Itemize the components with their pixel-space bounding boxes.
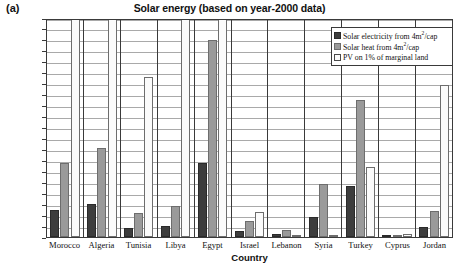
x-tick-label: Jordan [416,240,453,250]
y-tick-mark [42,29,46,30]
y-tick-mark [42,84,46,85]
x-tick-label: Israel [231,240,268,250]
bar[interactable] [245,221,254,237]
bar[interactable] [134,213,143,237]
x-tick-label: Libya [157,240,194,250]
y-tick-mark [42,227,46,228]
bar[interactable] [87,204,96,237]
legend-swatch-solar-electricity [334,32,341,39]
y-tick-mark [42,106,46,107]
bar[interactable] [403,234,412,237]
bar[interactable] [309,217,318,237]
bar[interactable] [181,19,190,237]
bar[interactable] [218,19,227,237]
bar-group [47,20,84,237]
bar-group [232,20,269,237]
y-tick-mark [42,19,46,20]
bar[interactable] [382,235,391,237]
bar[interactable] [272,234,281,237]
x-tick-label: Syria [305,240,342,250]
bar[interactable] [235,231,244,237]
y-tick-mark [42,40,46,41]
legend-swatch-solar-heat [334,43,341,50]
bar[interactable] [97,148,106,237]
legend-item[interactable]: Solar heat from 4m2/cap [334,41,450,52]
x-axis-labels: MoroccoAlgeriaTunisiaLibyaEgyptIsraelLeb… [46,240,453,250]
bar[interactable] [108,19,117,237]
bar[interactable] [255,212,264,237]
y-tick-mark [42,216,46,217]
bar[interactable] [161,226,170,237]
bar[interactable] [346,186,355,237]
y-tick-mark [42,150,46,151]
x-axis-title: Country [46,252,453,263]
bar[interactable] [144,77,153,237]
bar-group [121,20,158,237]
bar-group [158,20,195,237]
bar[interactable] [50,210,59,237]
bar[interactable] [292,235,301,237]
x-tick-label: Cyprus [379,240,416,250]
bar[interactable] [282,230,291,237]
bar-group [195,20,232,237]
y-tick-mark [42,62,46,63]
y-tick-mark [42,117,46,118]
bar[interactable] [393,235,402,237]
chart-title: Solar energy (based on year-2000 data) [0,2,459,14]
bar[interactable] [419,227,428,237]
bar[interactable] [319,184,328,237]
y-tick-mark [42,139,46,140]
bar[interactable] [430,211,439,237]
y-tick-mark [42,95,46,96]
y-tick-mark [42,183,46,184]
legend-label-pv-marginal-land: PV on 1% of marginal land [343,53,428,62]
legend-label-solar-heat: Solar heat from 4m2/cap [343,41,419,52]
bar-group [84,20,121,237]
y-tick-mark [42,73,46,74]
x-tick-label: Lebanon [268,240,305,250]
legend-item[interactable]: PV on 1% of marginal land [334,52,450,63]
bar[interactable] [440,85,449,237]
legend-label-solar-electricity: Solar electricity from 4m2/cap [343,30,437,41]
x-tick-label: Tunisia [120,240,157,250]
y-tick-mark [42,172,46,173]
bar[interactable] [329,235,338,237]
bar[interactable] [198,163,207,237]
bar-group [268,20,305,237]
bar[interactable] [356,100,365,237]
y-tick-mark [42,194,46,195]
x-tick-label: Egypt [194,240,231,250]
y-tick-mark [42,161,46,162]
legend-item[interactable]: Solar electricity from 4m2/cap [334,30,450,41]
bar[interactable] [60,163,69,237]
bar[interactable] [71,19,80,237]
legend-swatch-pv-marginal-land [334,54,341,61]
x-tick-label: Turkey [342,240,379,250]
x-tick-label: Morocco [46,240,83,250]
y-tick-mark [42,51,46,52]
chart-legend: Solar electricity from 4m2/cap Solar hea… [331,27,453,66]
y-tick-mark [42,238,46,239]
y-tick-mark [42,205,46,206]
y-tick-mark [42,128,46,129]
bar[interactable] [208,40,217,237]
x-tick-label: Algeria [83,240,120,250]
bar[interactable] [366,167,375,237]
bar[interactable] [124,228,133,237]
bar[interactable] [171,206,180,237]
